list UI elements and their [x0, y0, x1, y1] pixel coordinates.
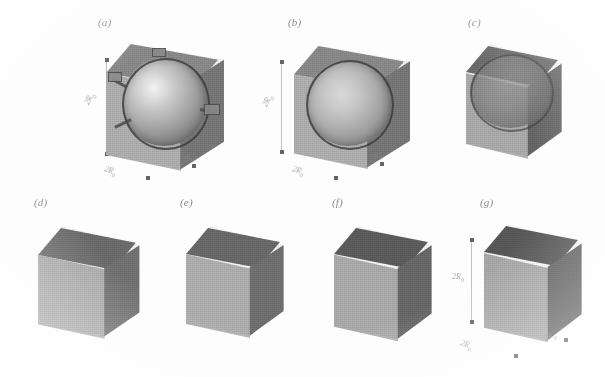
panel-b: (b) 2R0 2R0 2R0 — [262, 16, 427, 191]
dim-label-vertical-a: 2R0 — [82, 92, 97, 107]
panel-f: (f) — [318, 196, 468, 361]
panel-c: (c) — [448, 16, 588, 191]
panel-a-label: (a) — [98, 16, 111, 28]
panel-c-label: (c) — [468, 16, 481, 28]
panel-d-label: (d) — [34, 196, 47, 208]
nub-left-a — [108, 72, 122, 82]
dim-line-vertical-g — [471, 242, 472, 320]
dim-cap-bottom-right-b — [380, 162, 384, 166]
dim-line-vertical-b — [281, 64, 282, 150]
dim-label-vertical-g: 2R0 — [452, 272, 464, 283]
panel-d: (d) — [22, 196, 172, 361]
dim-cap-bottom-right-a — [192, 164, 196, 168]
figure-root: (a) 2R0 2R0 2 — [0, 0, 605, 377]
sphere-outline-b — [306, 60, 394, 150]
dim-cap-bottom-right-g — [564, 338, 568, 342]
sphere-outline-a — [122, 58, 210, 150]
panel-g-label: (g) — [480, 196, 493, 208]
dim-label-vertical-b: 2R0 — [260, 94, 275, 109]
panel-b-label: (b) — [288, 16, 301, 28]
panel-e: (e) — [172, 196, 322, 361]
dim-cap-bottom-b — [280, 150, 284, 154]
panel-a: (a) 2R0 2R0 2 — [70, 16, 240, 191]
dim-cap-bottom-mid-g — [514, 354, 518, 358]
panel-g: (g) 2R0 2R0 2R0 — [452, 196, 602, 366]
dim-label-bottom-left-g: 2R0 — [459, 338, 474, 352]
nub-right-a — [204, 104, 220, 115]
panel-e-label: (e) — [180, 196, 193, 208]
dim-cap-bottom-mid-b — [334, 176, 338, 180]
panel-f-label: (f) — [332, 196, 343, 208]
sphere-outline-c — [470, 54, 554, 132]
dim-cap-bottom-mid-a — [146, 176, 150, 180]
dim-cap-bottom-g — [470, 320, 474, 324]
nub-top-a — [152, 48, 166, 57]
